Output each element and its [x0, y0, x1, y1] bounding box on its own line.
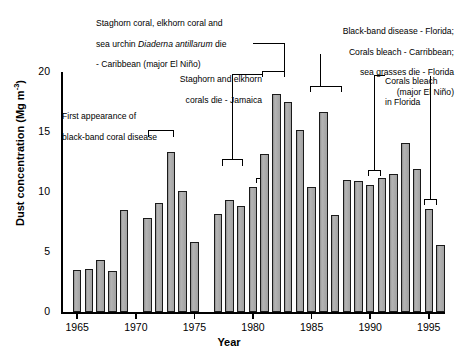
bar: [284, 102, 292, 312]
bar: [155, 203, 163, 312]
bar: [378, 178, 386, 312]
x-axis-tick-label: 1970: [116, 321, 156, 333]
y-axis-title: Dust concentration (Mg m-3): [12, 38, 26, 268]
bar: [331, 215, 339, 312]
bar: [343, 180, 351, 312]
x-axis-tick-label: 1995: [409, 321, 449, 333]
y-axis-tick-label: 10: [26, 185, 50, 197]
x-axis-tick: [311, 313, 313, 319]
bar: [143, 218, 151, 312]
plot-area: [62, 72, 444, 312]
bar: [225, 200, 233, 312]
x-axis-title: Year: [0, 336, 458, 348]
annotation-line: Corals bleach - Carribbean;: [349, 47, 454, 57]
x-axis-tick-label: 1965: [57, 321, 97, 333]
bar: [260, 154, 268, 312]
bar: [401, 143, 409, 312]
bar: [167, 152, 175, 312]
bar: [389, 174, 397, 312]
x-axis-tick: [369, 313, 371, 319]
x-axis-tick: [76, 313, 78, 319]
bar: [354, 181, 362, 312]
bar: [425, 209, 433, 312]
bar: [436, 245, 444, 312]
x-axis-tick: [194, 313, 196, 319]
bar: [366, 185, 374, 312]
bar: [85, 269, 93, 312]
bar: [120, 210, 128, 312]
bar: [307, 187, 315, 312]
bar: [319, 112, 327, 312]
annotation-species: Diaderna antillarum: [138, 39, 213, 49]
chart-figure: Staghorn coral, elkhorn coral and sea ur…: [0, 0, 458, 354]
x-axis-tick-label: 1985: [292, 321, 332, 333]
x-axis-tick-label: 1990: [350, 321, 390, 333]
annotation-staghorn-elkhorn-urchin: Staghorn coral, elkhorn coral and sea ur…: [96, 8, 284, 69]
x-axis-tick-label: 1980: [233, 321, 273, 333]
bar: [272, 94, 280, 312]
x-axis-tick: [135, 313, 137, 319]
bar: [413, 169, 421, 312]
leader-line-urchin-vertical: [284, 43, 285, 71]
bar: [214, 214, 222, 312]
annotation-line: Black-band disease - Florida;: [343, 26, 454, 36]
x-axis-tick: [428, 313, 430, 319]
bar: [237, 206, 245, 312]
annotation-line: die: [213, 39, 227, 49]
bar: [96, 260, 104, 312]
x-axis-tick: [252, 313, 254, 319]
annotation-line: Staghorn coral, elkhorn coral and: [96, 18, 223, 28]
bar: [108, 271, 116, 312]
bar: [178, 191, 186, 312]
bar: [296, 130, 304, 312]
bar: [73, 270, 81, 312]
bar: [190, 242, 198, 312]
x-axis-tick-label: 1975: [174, 321, 214, 333]
y-tick-group: 05101520: [0, 0, 62, 354]
annotation-line: sea urchin: [96, 39, 138, 49]
bar: [249, 187, 257, 312]
leader-line-urchin-horizontal: [253, 43, 285, 44]
y-axis-tick-label: 20: [26, 65, 50, 77]
y-axis-tick-label: 5: [26, 245, 50, 257]
y-axis-tick-label: 15: [26, 125, 50, 137]
